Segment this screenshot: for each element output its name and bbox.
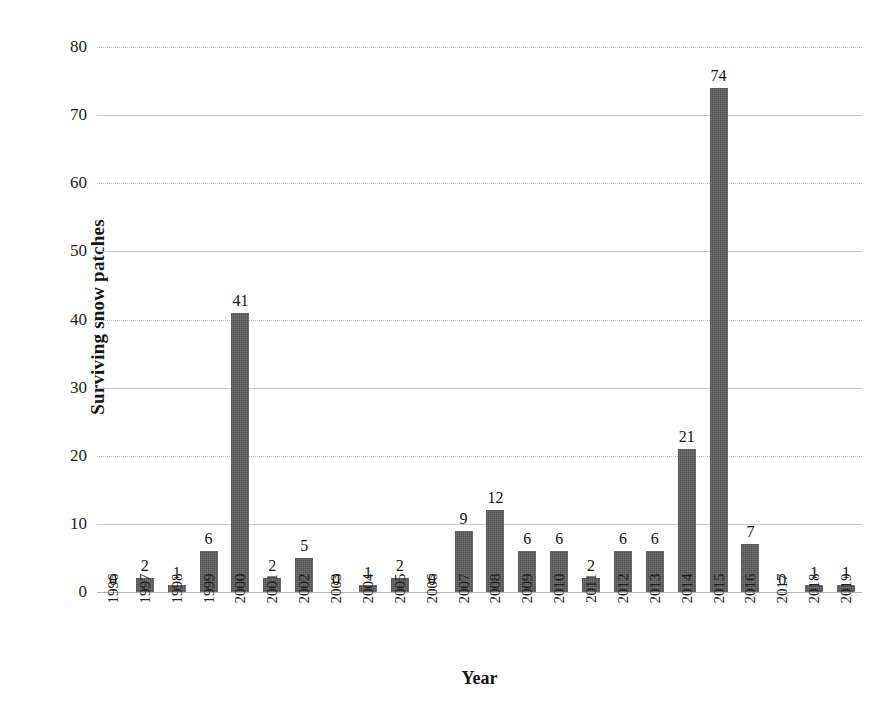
x-axis-tick-label: 2000 — [232, 574, 249, 644]
x-axis-tick-label: 2010 — [551, 574, 568, 644]
x-axis-tick-label: 2014 — [678, 574, 695, 644]
bar-value-label: 6 — [523, 530, 531, 548]
bar-slot: 2 — [129, 47, 161, 592]
x-axis-tick-label: 1997 — [136, 574, 153, 644]
bar-value-label: 6 — [205, 530, 213, 548]
bar-slot: 12 — [480, 47, 512, 592]
x-axis-tick-label: 2004 — [359, 574, 376, 644]
bar-slot: 7 — [735, 47, 767, 592]
bar-slot: 1 — [352, 47, 384, 592]
bar-value-label: 12 — [487, 489, 503, 507]
plot-area: 0216412501209126626621747011 — [97, 47, 862, 592]
x-axis-tick-label: 2001 — [264, 574, 281, 644]
bar-value-label: 9 — [460, 510, 468, 528]
x-axis-tick-label: 2017 — [774, 574, 791, 644]
bar-slot: 1 — [798, 47, 830, 592]
y-axis-tick-label: 80 — [31, 37, 87, 57]
x-axis-title: Year — [97, 668, 862, 689]
bar-series: 0216412501209126626621747011 — [97, 47, 862, 592]
x-axis-tick-label: 1999 — [200, 574, 217, 644]
x-axis-tick-label: 2007 — [455, 574, 472, 644]
bar-value-label: 6 — [555, 530, 563, 548]
y-axis-tick-label: 70 — [31, 105, 87, 125]
y-axis-tick-label: 50 — [31, 241, 87, 261]
bar[interactable] — [678, 449, 696, 592]
bar-slot: 6 — [543, 47, 575, 592]
bar-slot: 1 — [161, 47, 193, 592]
bar-value-label: 74 — [711, 67, 727, 85]
bar-value-label: 6 — [619, 530, 627, 548]
y-axis-tick-label: 0 — [31, 582, 87, 602]
y-axis-tick-label: 20 — [31, 446, 87, 466]
x-axis-tick-label: 2013 — [646, 574, 663, 644]
bar-slot: 0 — [416, 47, 448, 592]
bar-slot: 2 — [384, 47, 416, 592]
x-axis-tick-label: 2015 — [710, 574, 727, 644]
x-axis-tick-label: 2005 — [391, 574, 408, 644]
bar-value-label: 21 — [679, 428, 695, 446]
y-axis-tick-label: 60 — [31, 173, 87, 193]
x-axis-tick-label: 2008 — [487, 574, 504, 644]
x-axis-tick-label: 2003 — [328, 574, 345, 644]
y-axis-tick-label: 30 — [31, 378, 87, 398]
x-axis-tick-label: 2011 — [583, 574, 600, 644]
bar-slot: 2 — [256, 47, 288, 592]
bar-slot: 0 — [766, 47, 798, 592]
bar-slot: 41 — [225, 47, 257, 592]
bar-slot: 1 — [830, 47, 862, 592]
y-axis-tick-label: 40 — [31, 310, 87, 330]
bar-slot: 9 — [448, 47, 480, 592]
x-axis-tick-label: 2002 — [296, 574, 313, 644]
x-axis-tick-label: 1998 — [168, 574, 185, 644]
bar-slot: 74 — [703, 47, 735, 592]
bar-slot: 0 — [97, 47, 129, 592]
bar-slot: 5 — [288, 47, 320, 592]
x-axis-tick-label: 2012 — [614, 574, 631, 644]
bar-slot: 6 — [193, 47, 225, 592]
bar-slot: 6 — [607, 47, 639, 592]
bar-value-label: 7 — [746, 523, 754, 541]
x-axis-tick-label: 2009 — [519, 574, 536, 644]
bar-chart: Surviving snow patches 01020304050607080… — [0, 0, 894, 710]
bar-slot: 21 — [671, 47, 703, 592]
y-axis-tick-label: 10 — [31, 514, 87, 534]
bar-value-label: 41 — [232, 292, 248, 310]
bar-slot: 0 — [320, 47, 352, 592]
bar-slot: 6 — [639, 47, 671, 592]
bar-value-label: 6 — [651, 530, 659, 548]
x-axis-tick-label: 2016 — [742, 574, 759, 644]
x-axis-tick-label: 2018 — [806, 574, 823, 644]
bar[interactable] — [710, 88, 728, 592]
bar-slot: 2 — [575, 47, 607, 592]
bar-slot: 6 — [511, 47, 543, 592]
bar-value-label: 5 — [300, 537, 308, 555]
x-axis-tick-label: 1996 — [104, 574, 121, 644]
bar[interactable] — [231, 313, 249, 592]
x-axis-tick-label: 2019 — [838, 574, 855, 644]
x-axis-tick-label: 2006 — [423, 574, 440, 644]
